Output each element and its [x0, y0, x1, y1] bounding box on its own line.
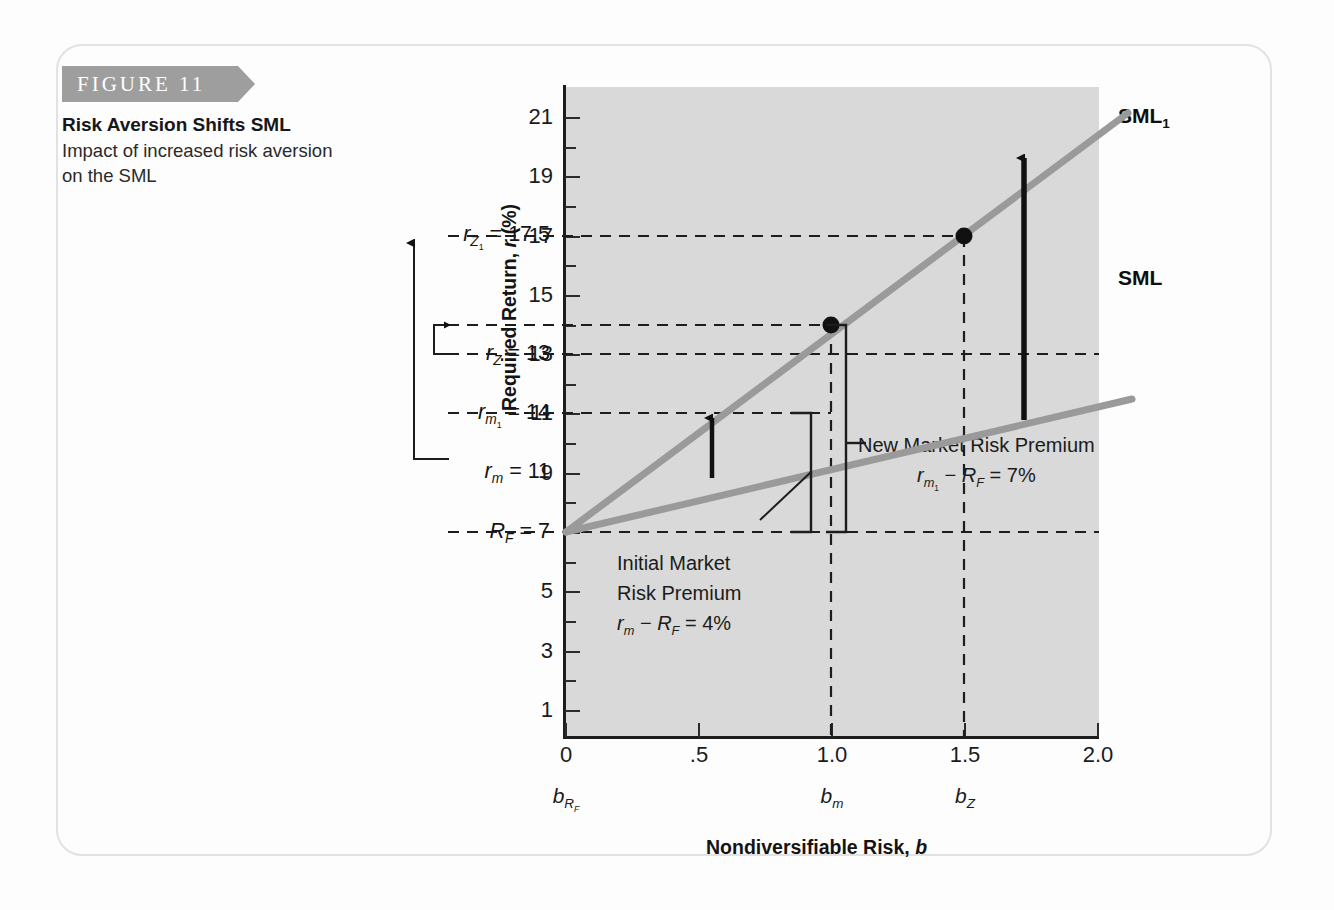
x-tick-label-0: 0: [521, 742, 611, 768]
y-tick-10: [565, 443, 576, 445]
y-axis-title: Required Return, r (%): [498, 178, 521, 438]
x-secondary-label-bz: bZ: [920, 784, 1010, 811]
y-tick-6: [565, 562, 576, 564]
y-tick-21: [565, 117, 580, 119]
figure-number-label: FIGURE 11: [62, 72, 205, 97]
y-tick-16: [565, 265, 576, 267]
y-tick-9: [565, 473, 580, 475]
x-secondary-label-bm: bm: [787, 784, 877, 811]
annotation-initial-line2: Risk Premium: [617, 578, 741, 608]
y-tick-4: [565, 621, 576, 623]
x-tick-label-2.0: 2.0: [1053, 742, 1143, 768]
y-tick-20: [565, 147, 576, 149]
x-tick-1.5: [964, 723, 966, 737]
y-tick-17: [565, 236, 580, 238]
y-tick-14: [565, 325, 576, 327]
x-secondary-label-brf: bRF: [521, 784, 611, 814]
figure-subtitle: Impact of increased risk aversion on the…: [62, 139, 352, 188]
y-tick-label-21: 21: [493, 104, 553, 130]
figure-caption: Risk Aversion Shifts SML Impact of incre…: [62, 112, 352, 188]
annotation-initial-line1: Initial Market: [617, 548, 741, 578]
x-tick-label-1.5: 1.5: [920, 742, 1010, 768]
x-tick-0: [565, 723, 567, 737]
annotation-new-market-risk-premium: New Market Risk Premium rm1 − RF = 7%: [858, 430, 1095, 495]
y-tick-11: [565, 413, 580, 415]
x-tick-0.5: [698, 723, 700, 737]
annotation-initial-formula: rm − RF = 4%: [617, 608, 741, 640]
series-label-sml: SML: [1118, 266, 1162, 290]
x-tick-2.0: [1097, 723, 1099, 737]
value-label-rf: RF = 7: [300, 519, 550, 546]
annotation-new-line1: New Market Risk Premium: [858, 430, 1095, 460]
y-tick-13: [565, 354, 580, 356]
x-tick-1.0: [831, 723, 833, 737]
value-label-rm: rm = 11: [300, 459, 550, 486]
y-axis-line: [563, 85, 566, 739]
y-tick-7: [565, 532, 580, 534]
annotation-initial-market-risk-premium: Initial Market Risk Premium rm − RF = 4%: [617, 548, 741, 640]
y-tick-19: [565, 176, 580, 178]
y-tick-8: [565, 502, 576, 504]
banner-arrow-icon: [238, 66, 255, 102]
y-tick-12: [565, 384, 576, 386]
x-tick-label-0.5: .5: [654, 742, 744, 768]
y-tick-3: [565, 651, 580, 653]
y-tick-1: [565, 710, 580, 712]
y-tick-18: [565, 206, 576, 208]
x-tick-label-1.0: 1.0: [787, 742, 877, 768]
series-label-sml1: SML1: [1118, 104, 1170, 131]
figure-title: Risk Aversion Shifts SML: [62, 112, 352, 137]
y-tick-15: [565, 295, 580, 297]
y-tick-5: [565, 591, 580, 593]
annotation-new-formula: rm1 − RF = 7%: [858, 460, 1095, 495]
y-tick-label-1: 1: [493, 697, 553, 723]
y-tick-label-3: 3: [493, 638, 553, 664]
figure-banner: FIGURE 11: [62, 66, 238, 102]
y-tick-2: [565, 680, 576, 682]
y-tick-label-5: 5: [493, 578, 553, 604]
x-axis-title: Nondiversifiable Risk, b: [706, 836, 927, 859]
